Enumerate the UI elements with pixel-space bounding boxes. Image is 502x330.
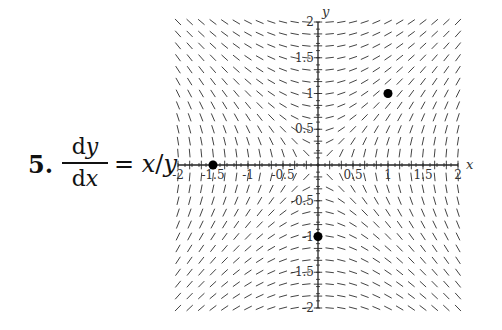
slope-segment	[256, 258, 263, 263]
slope-segment	[352, 149, 355, 157]
slope-segment	[279, 235, 287, 239]
slope-segment	[385, 102, 390, 109]
slope-segment	[233, 55, 240, 60]
slope-segment	[187, 269, 192, 276]
slope-segment	[233, 245, 239, 251]
initial-point	[384, 89, 393, 98]
slope-segment	[373, 56, 380, 60]
slope-segment	[222, 102, 226, 109]
slope-segment	[432, 269, 438, 275]
slope-segment	[291, 247, 299, 249]
slope-segment	[233, 32, 240, 37]
slope-segment	[175, 293, 181, 299]
slope-segment	[396, 32, 403, 37]
slope-segment	[384, 306, 392, 310]
slope-segment	[256, 294, 264, 298]
slope-segment	[198, 43, 204, 49]
slope-segment	[199, 55, 205, 61]
slope-segment	[234, 233, 239, 240]
slope-segment	[455, 293, 461, 299]
slope-segment	[398, 197, 401, 205]
slope-segment	[236, 173, 237, 181]
slope-segment	[362, 126, 367, 133]
slope-segment	[349, 80, 357, 83]
slope-segment	[177, 185, 178, 193]
slope-segment	[397, 221, 402, 228]
slope-segment	[210, 43, 216, 49]
slope-segment	[325, 34, 333, 35]
slope-segment	[456, 78, 460, 85]
slope-segment	[199, 66, 204, 73]
slope-segment	[176, 233, 180, 241]
slope-segment	[376, 173, 378, 181]
slope-segment	[187, 66, 192, 73]
slope-segment	[210, 78, 215, 85]
slope-segment	[432, 293, 438, 299]
slope-segment	[444, 66, 449, 73]
slope-segment	[189, 197, 191, 205]
slope-segment	[384, 294, 391, 298]
slope-segment	[176, 245, 180, 252]
slope-segment	[325, 45, 333, 46]
slope-segment	[199, 245, 204, 252]
slope-segment	[221, 31, 228, 36]
slope-segment	[210, 269, 216, 275]
x-axis-label: x	[466, 157, 474, 172]
slope-segment	[223, 197, 226, 205]
slope-segment	[256, 79, 263, 84]
slope-segment	[385, 246, 391, 252]
slope-segment	[420, 43, 426, 49]
slope-segment	[188, 90, 192, 98]
slope-segment	[233, 67, 239, 73]
slope-segment	[246, 197, 250, 205]
slope-segment	[397, 79, 403, 85]
slope-segment	[432, 257, 437, 264]
slope-segment	[187, 305, 193, 311]
slope-segment	[443, 31, 449, 37]
slope-segment	[267, 21, 275, 24]
slope-segment	[244, 294, 251, 298]
slope-segment	[431, 19, 437, 24]
slope-segment	[456, 90, 460, 98]
slope-segment	[279, 33, 287, 35]
slope-segment	[349, 21, 357, 23]
slope-segment	[409, 233, 414, 240]
slope-segment	[373, 32, 381, 36]
slope-segment	[455, 43, 460, 50]
slope-segment	[420, 305, 427, 310]
slope-segment	[446, 173, 447, 182]
slope-segment	[247, 149, 248, 157]
slope-segment	[291, 235, 299, 238]
slope-segment	[373, 67, 380, 72]
slope-segment	[386, 125, 390, 133]
slope-segment	[420, 269, 426, 275]
slope-segment	[397, 67, 403, 73]
slope-segment	[397, 102, 402, 109]
slope-segment	[223, 113, 227, 121]
slope-segment	[210, 19, 217, 24]
slope-segment	[268, 68, 276, 72]
slope-segment	[337, 235, 345, 238]
slope-segment	[387, 137, 390, 145]
slope-segment	[268, 114, 274, 120]
slope-segment	[372, 20, 380, 23]
slope-segment	[211, 90, 216, 97]
slope-segment	[234, 221, 239, 228]
slope-segment	[373, 246, 380, 251]
slope-segment	[279, 307, 287, 309]
slope-segment	[233, 306, 240, 310]
slope-segment	[455, 281, 460, 288]
slope-segment	[302, 212, 310, 214]
slope-segment	[303, 187, 311, 191]
slope-segment	[270, 149, 272, 157]
slope-segment	[222, 78, 228, 84]
slope-segment	[362, 114, 368, 120]
slope-segment	[212, 125, 215, 133]
slope-segment	[361, 44, 369, 47]
slope-segment	[198, 293, 204, 299]
slope-segment	[256, 270, 263, 274]
slope-segment	[433, 125, 435, 133]
slope-segment	[187, 78, 192, 85]
slope-segment	[444, 90, 448, 98]
slope-segment	[221, 306, 228, 311]
